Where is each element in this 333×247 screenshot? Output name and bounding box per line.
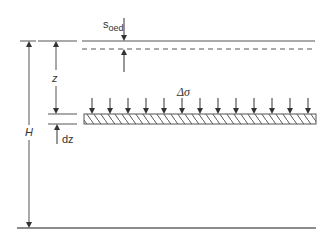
settlement-label: soed [103, 18, 124, 33]
slice-thickness-label: dz [62, 133, 74, 145]
depth-label: z [51, 72, 58, 84]
load-arrows [92, 98, 308, 111]
load-increment-label: Δσ [176, 85, 191, 99]
hatched-slice [84, 114, 316, 124]
thickness-label: H [25, 126, 33, 138]
settlement-diagram: soed H z dz Δσ [0, 0, 333, 247]
